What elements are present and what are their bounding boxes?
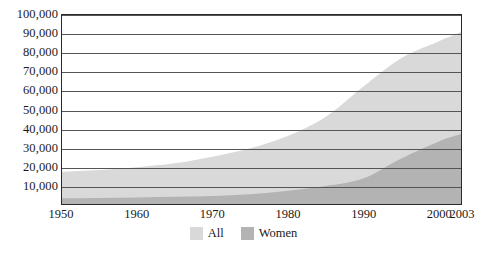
x-axis-tick-label: 1970 xyxy=(200,208,225,221)
x-axis-tick-label: 1990 xyxy=(351,208,376,221)
x-axis-tick-label: 2003 xyxy=(450,208,475,221)
legend-swatch-icon xyxy=(190,227,203,240)
x-axis-tick-label: 2000 xyxy=(427,208,452,221)
legend-item: Women xyxy=(241,227,298,240)
legend-label: Women xyxy=(259,227,298,240)
legend-swatch-icon xyxy=(241,227,254,240)
x-axis-tick-label: 1950 xyxy=(49,208,74,221)
series-svg xyxy=(62,15,461,204)
x-axis-tick-label: 1960 xyxy=(124,208,149,221)
legend-item: All xyxy=(190,227,224,240)
chart-legend: AllWomen xyxy=(0,227,487,240)
plot-area xyxy=(61,14,462,205)
legend-label: All xyxy=(208,227,224,240)
series-layer xyxy=(62,15,461,204)
x-axis-tick-label: 1980 xyxy=(275,208,300,221)
area-chart-figure: 10,00020,00030,00040,00050,00060,00070,0… xyxy=(0,0,487,254)
